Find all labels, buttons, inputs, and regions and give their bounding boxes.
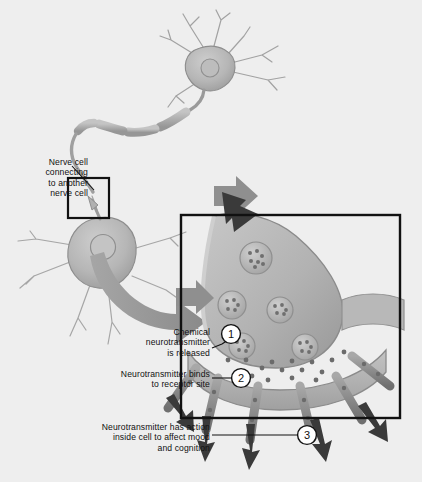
label-nerve-cell: Nerve cell connecting to another nerve c… — [6, 157, 88, 199]
diagram-artwork: 1 2 3 — [0, 0, 422, 482]
svg-text:3: 3 — [304, 429, 310, 441]
diagram-canvas: 1 2 3 Nerve cell connecting to another n… — [0, 0, 422, 482]
svg-text:2: 2 — [238, 372, 244, 384]
label-step-1: Chemical neurotransmitter is released — [118, 327, 210, 358]
label-step-2: Neurotransmitter binds to receptor site — [72, 369, 210, 390]
label-step-3: Neurotransmitter has action inside cell … — [22, 422, 210, 453]
marker-2: 2 — [232, 369, 251, 388]
marker-3: 3 — [298, 426, 317, 445]
marker-1: 1 — [222, 325, 241, 344]
svg-text:1: 1 — [228, 328, 234, 340]
